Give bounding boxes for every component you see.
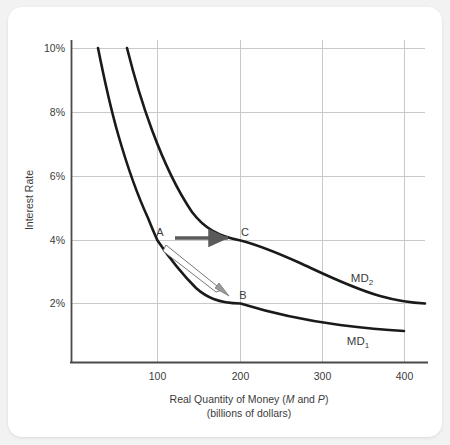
x-tick-label-200: 200 — [232, 370, 250, 382]
x-tick-label-100: 100 — [149, 370, 167, 382]
x-axis-title-middle: and — [295, 393, 318, 405]
curve-labels: MD2 MD1 — [347, 272, 374, 350]
axes — [70, 40, 428, 363]
y-tick-label-8: 8% — [50, 106, 65, 118]
x-axis-subtitle: (billions of dollars) — [207, 407, 292, 419]
y-tick-label-10: 10% — [44, 42, 65, 54]
point-label-a: A — [156, 226, 164, 238]
curve-label-md2: MD2 — [351, 272, 374, 287]
demand-curves — [98, 48, 425, 331]
x-tick-label-400: 400 — [396, 370, 414, 382]
curve-label-md2-text: MD — [351, 272, 369, 284]
x-axis-title: Real Quantity of Money (M and P) — [170, 393, 329, 405]
money-demand-chart: 10% 8% 6% 4% 2% 100 200 300 400 Interest… — [0, 0, 450, 445]
x-axis-title-lead: Real Quantity of Money ( — [170, 393, 287, 405]
point-label-c: C — [241, 226, 249, 238]
point-label-b: B — [239, 289, 246, 301]
curve-label-md1: MD1 — [347, 335, 370, 350]
x-tick-labels: 100 200 300 400 — [149, 370, 414, 382]
figure-page: 10% 8% 6% 4% 2% 100 200 300 400 Interest… — [0, 0, 450, 445]
move-arrow-head — [215, 283, 229, 296]
curve-label-md2-sub: 2 — [369, 278, 374, 287]
y-axis-title: Interest Rate — [23, 170, 35, 230]
x-tick-label-300: 300 — [314, 370, 332, 382]
x-axis-title-italic-p: P — [318, 393, 325, 405]
y-tick-labels: 10% 8% 6% 4% 2% — [44, 42, 65, 309]
curve-label-md1-text: MD — [347, 335, 365, 347]
x-axis-title-italic-m: M — [286, 393, 295, 405]
curve-label-md1-sub: 1 — [365, 341, 370, 350]
grid-lines — [71, 40, 425, 362]
y-tick-label-2: 2% — [50, 297, 65, 309]
x-axis-title-trail: ) — [325, 393, 329, 405]
y-tick-label-4: 4% — [50, 234, 65, 246]
curve-md2 — [127, 48, 425, 304]
y-tick-label-6: 6% — [50, 170, 65, 182]
